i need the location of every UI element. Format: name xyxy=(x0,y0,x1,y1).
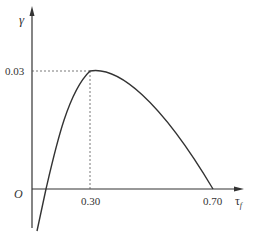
y-axis-label: γ xyxy=(19,12,25,27)
x-axis-arrow-icon xyxy=(234,187,244,192)
y-tick-0.03: 0.03 xyxy=(5,65,25,77)
x-tick-0.70: 0.70 xyxy=(203,195,223,207)
chart: γ 0.03 O 0.30 0.70 τf xyxy=(0,0,255,232)
y-axis-arrow-icon xyxy=(30,6,35,16)
gamma-curve xyxy=(37,71,213,231)
x-tick-0.30: 0.30 xyxy=(81,195,101,207)
x-axis-label: τf xyxy=(235,194,244,210)
origin-label: O xyxy=(14,187,23,201)
